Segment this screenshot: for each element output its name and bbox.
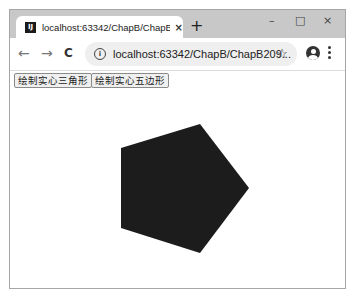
filled-pentagon — [121, 124, 249, 253]
drawing-canvas — [0, 0, 356, 299]
